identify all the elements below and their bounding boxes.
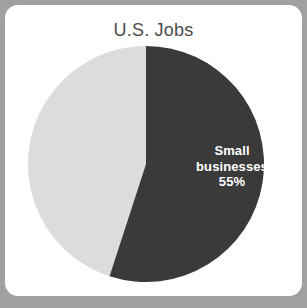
pie-slice-label-line-3: 55% xyxy=(177,174,287,190)
screenshot-root: U.S. Jobs Small businesses 55% xyxy=(0,0,307,308)
pie-slice-label-line-2: businesses xyxy=(177,159,287,175)
pie-chart: Small businesses 55% xyxy=(27,45,265,283)
chart-title: U.S. Jobs xyxy=(5,19,302,41)
pie-slice-label: Small businesses 55% xyxy=(177,143,287,190)
pie-slice-label-line-1: Small xyxy=(177,143,287,159)
chart-card: U.S. Jobs Small businesses 55% xyxy=(5,5,302,296)
